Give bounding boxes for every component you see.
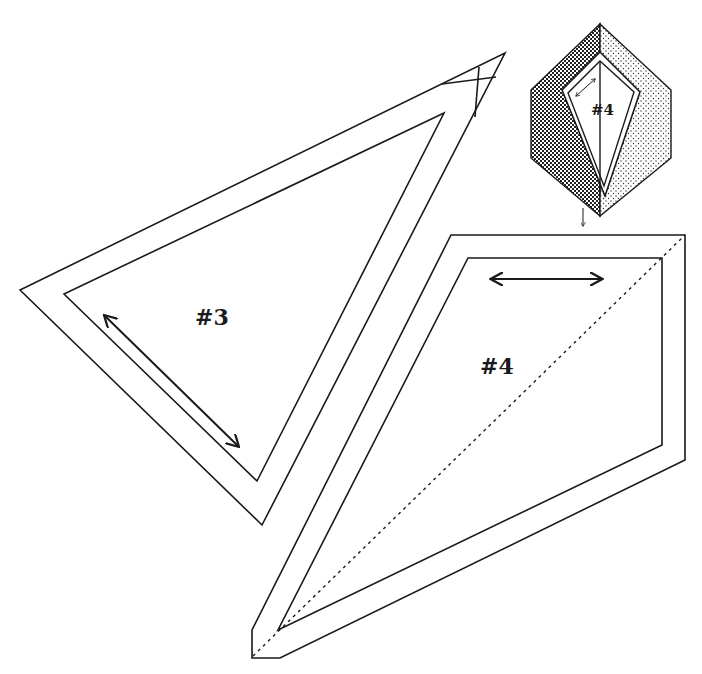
- piece-3-template: [20, 53, 505, 525]
- inset-piece-4-label: #4: [591, 101, 614, 119]
- piece-3-outer-cut-line: [20, 53, 505, 525]
- piece-4-template: [252, 235, 685, 658]
- piece-4-label: #4: [480, 353, 514, 379]
- piece-3-inner-sew-line: [64, 113, 444, 481]
- piece-3-grain-arrow: [105, 316, 238, 446]
- inset-block-diagram: [531, 24, 671, 226]
- piece-4-fold-line: [253, 235, 685, 656]
- piece-3-label: #3: [195, 304, 229, 330]
